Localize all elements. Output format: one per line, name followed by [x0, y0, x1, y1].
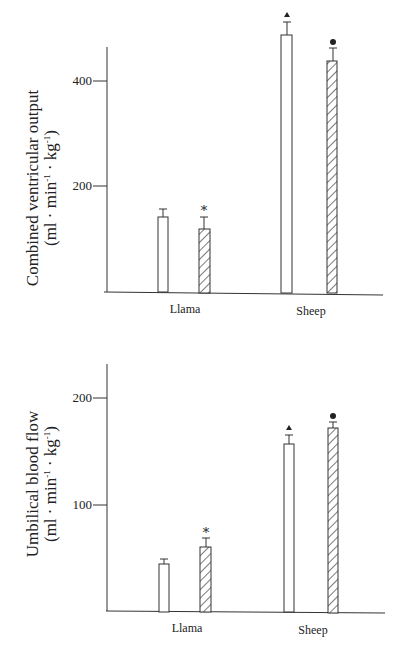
chart-combined-ventricular-output: Combined ventricular output (ml · min-1 …	[23, 12, 383, 318]
bar-sheep-open	[284, 444, 294, 612]
significance-asterisk: *	[203, 525, 210, 540]
y-axis-label: Umbilical blood flow (ml · min-1 · kg-1)	[23, 410, 60, 557]
x-axis	[106, 611, 385, 613]
circle-marker-icon	[330, 39, 336, 45]
bar-sheep-hatched	[327, 61, 337, 293]
category-label-llama: Llama	[172, 621, 203, 635]
bar-llama-open	[159, 564, 169, 612]
figure: Combined ventricular output (ml · min-1 …	[0, 0, 399, 649]
chart-umbilical-blood-flow: Umbilical blood flow (ml · min-1 · kg-1)…	[23, 364, 385, 637]
bar-llama-open	[158, 217, 168, 292]
circle-marker-icon	[330, 413, 336, 419]
significance-asterisk: *	[201, 203, 208, 218]
y-axis-unit: (ml · min-1 · kg-1)	[41, 426, 60, 542]
triangle-marker-icon	[284, 12, 290, 17]
category-label-llama: Llama	[170, 302, 201, 316]
y-axis-label: Combined ventricular output (ml · min-1 …	[23, 90, 60, 287]
y-axis-unit: (ml · min-1 · kg-1)	[41, 130, 60, 246]
bar-llama-hatched	[200, 547, 211, 612]
tick-label-400: 400	[73, 73, 93, 88]
tick-label-100: 100	[73, 497, 93, 512]
triangle-marker-icon	[286, 425, 292, 430]
bar-sheep-open	[281, 35, 292, 293]
y-axis-title: Combined ventricular output	[23, 90, 42, 287]
x-axis	[104, 292, 383, 295]
tick-label-200: 200	[73, 178, 93, 193]
y-axis-title: Umbilical blood flow	[23, 410, 42, 557]
category-label-sheep: Sheep	[298, 623, 327, 637]
bar-llama-hatched	[199, 229, 210, 293]
tick-label-200: 200	[73, 390, 93, 405]
category-label-sheep: Sheep	[296, 304, 325, 318]
bar-sheep-hatched	[328, 428, 338, 613]
